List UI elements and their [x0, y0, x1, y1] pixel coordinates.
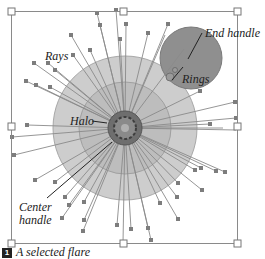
label-rings: Rings [182, 73, 209, 86]
label-rays: Rays [45, 50, 68, 63]
label-halo: Halo [70, 115, 94, 128]
flare-diagram: Rays Halo End handle Rings Center handle… [0, 0, 265, 259]
caption-number: 1 [2, 248, 12, 258]
figure-caption: 1 A selected flare [2, 245, 90, 259]
ring-tiny [173, 68, 178, 73]
label-center-handle-line2: handle [19, 214, 52, 227]
center-handle[interactable] [121, 124, 129, 132]
caption-text: A selected flare [16, 245, 90, 259]
label-end-handle: End handle [205, 27, 260, 40]
